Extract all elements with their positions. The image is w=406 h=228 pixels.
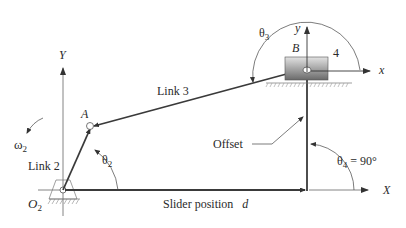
pin-a [87, 123, 94, 130]
point-a-label: A [81, 108, 88, 120]
theta2-label: θ2 [102, 154, 112, 169]
theta4-label: θ4 = 90° [337, 155, 377, 170]
global-x-axis-label: X [383, 184, 390, 196]
omega2-label: ω2 [14, 138, 27, 154]
omega2-arrow [27, 118, 43, 133]
link3-label: Link 3 [157, 85, 189, 97]
offset-label: Offset [213, 138, 243, 150]
slider-block-4 [266, 57, 352, 87]
ground-pivot-label: O2 [28, 197, 42, 213]
local-x-axis-label: x [379, 64, 384, 76]
offset-leader [252, 117, 303, 144]
local-y-axis-label: y [295, 22, 300, 34]
slider-position-label: Slider position d [163, 198, 248, 210]
ground-pivot-o2 [48, 180, 80, 204]
global-y-axis-label: Y [59, 49, 66, 61]
link-3 [94, 69, 305, 126]
theta3-label: θ3 [259, 27, 269, 42]
link-2 [63, 129, 90, 190]
slider-number-label: 4 [333, 47, 339, 59]
point-b-label: B [292, 42, 299, 54]
link2-label: Link 2 [28, 160, 60, 172]
linkage-diagram [0, 0, 406, 228]
